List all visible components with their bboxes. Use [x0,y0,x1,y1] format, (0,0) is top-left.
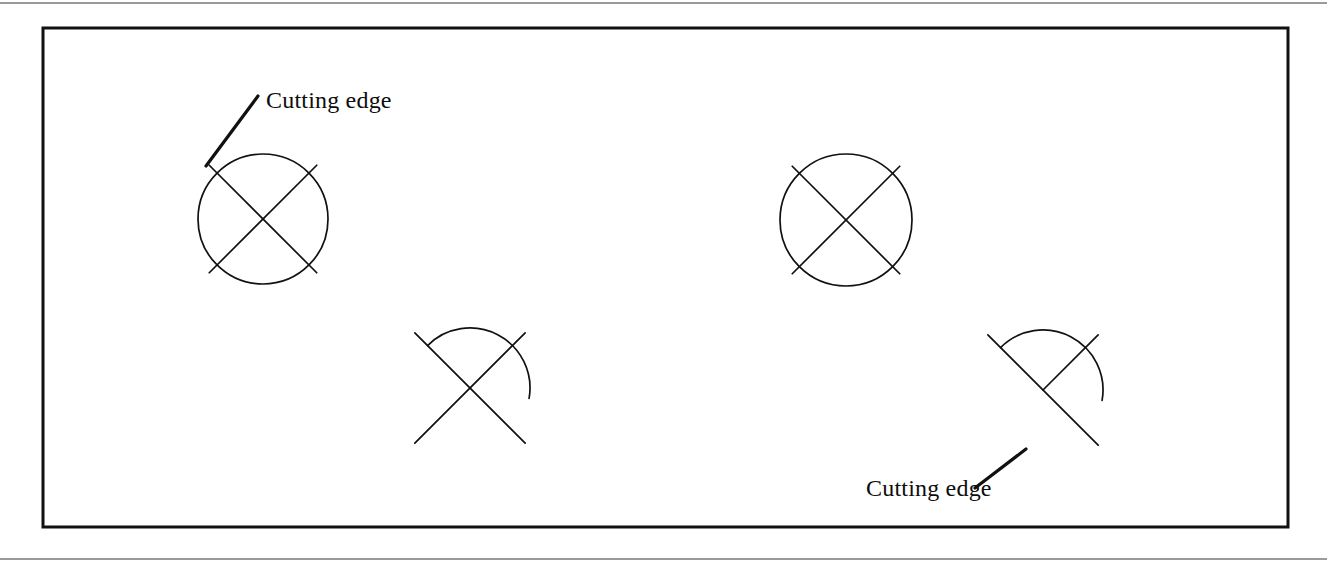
fig-top-left [198,96,328,284]
fig-bottom-left-arc [428,328,530,398]
fig-bottom-right-arc [1001,330,1103,400]
figure-border [43,28,1288,527]
fig-top-right [780,154,912,286]
figures-layer [198,96,1103,488]
fig-bottom-left [415,328,530,443]
label-cutting-edge-top-left: Cutting edge [266,87,392,113]
fig-bottom-right [975,330,1103,488]
fig-bottom-right-diagonal-ascending [1043,335,1098,390]
cutting-edge-diagram: Cutting edge Cutting edge [0,0,1327,570]
diagram-page: Cutting edge Cutting edge [0,0,1327,570]
label-cutting-edge-bottom-right: Cutting edge [866,475,992,501]
